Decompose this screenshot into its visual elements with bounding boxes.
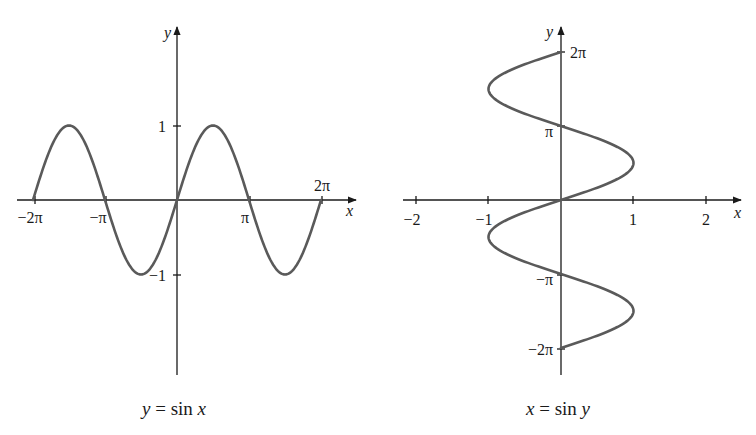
right-x-tick-label: 2	[702, 211, 710, 228]
right-y-tick-label: −2π	[528, 341, 553, 358]
left-x-axis-label: x	[345, 202, 353, 219]
right-plot: −2 −1 1 2 2π π −π −2π x y	[403, 23, 741, 375]
right-y-tick-label: 2π	[570, 44, 586, 61]
caption-eq: = sin	[534, 398, 581, 419]
right-x-tick-label: −2	[403, 211, 420, 228]
right-y-tick-label: π	[545, 123, 553, 140]
left-x-tick-label: 2π	[314, 177, 330, 194]
right-caption: x = sin y	[526, 398, 590, 420]
figure: −2π −π π 2π 1 −1 x y −2 −1 1 2 2π π −π	[0, 0, 756, 435]
left-y-tick-label: 1	[158, 118, 166, 135]
left-y-tick-label: −1	[149, 267, 166, 284]
left-y-axis-label: y	[162, 24, 172, 42]
right-x-axis-label: x	[733, 204, 741, 221]
right-x-tick-label: 1	[629, 211, 637, 228]
left-x-tick-label: −2π	[17, 209, 42, 226]
caption-rhs: y	[582, 398, 590, 419]
left-x-tick-label: π	[241, 209, 249, 226]
caption-rhs: x	[198, 398, 206, 419]
right-y-tick-label: −π	[536, 271, 553, 288]
left-caption: y = sin x	[142, 398, 206, 420]
left-x-tick-label: −π	[89, 209, 106, 226]
caption-eq: = sin	[150, 398, 197, 419]
right-x-tick-label: −1	[475, 211, 492, 228]
left-plot: −2π −π π 2π 1 −1 x y	[17, 24, 356, 375]
right-y-axis-label: y	[544, 23, 554, 41]
